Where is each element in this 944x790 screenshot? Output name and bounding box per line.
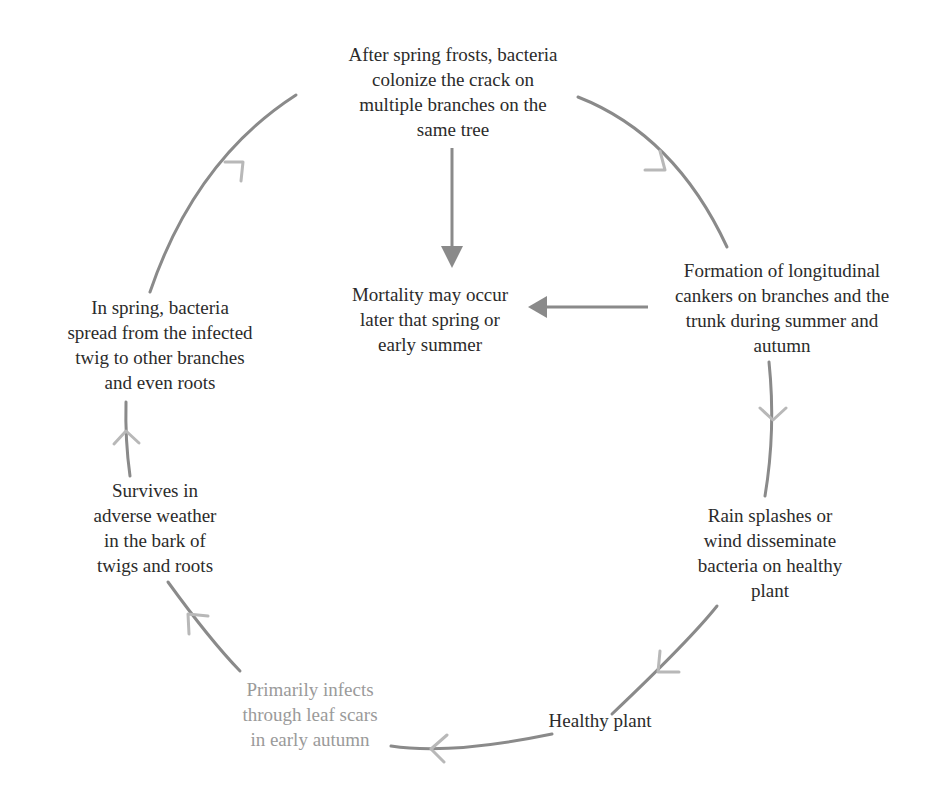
arrowhead-down-icon	[441, 246, 463, 268]
edge-survival-to-spread	[126, 402, 130, 476]
chevron-dissemination-to-healthy-icon	[658, 651, 679, 672]
edge-dissemination-to-healthy	[612, 606, 717, 714]
chevron-frosts-to-cankers-icon	[645, 151, 665, 170]
node-dissemination: Rain splashes or wind disseminate bacter…	[670, 503, 870, 603]
node-spring-spread: In spring, bacteria spread from the infe…	[40, 295, 280, 395]
edge-cankers-to-dissemination	[765, 362, 772, 496]
edge-spread-to-frosts	[150, 95, 296, 292]
node-mortality: Mortality may occur later that spring or…	[330, 282, 530, 357]
edge-primary-to-survival	[168, 582, 240, 671]
node-survival: Survives in adverse weather in the bark …	[70, 478, 240, 578]
edge-frosts-to-cankers	[578, 97, 727, 247]
node-primary-infection: Primarily infects through leaf scars in …	[220, 677, 400, 752]
node-healthy-plant: Healthy plant	[520, 708, 680, 733]
edge-healthy-to-primary	[391, 734, 552, 749]
arrowhead-left-icon	[528, 296, 547, 318]
node-canker-formation: Formation of longitudinal cankers on bra…	[652, 258, 912, 358]
chevron-spread-to-frosts-icon	[225, 162, 243, 181]
node-spring-frosts: After spring frosts, bacteria colonize t…	[318, 42, 588, 142]
